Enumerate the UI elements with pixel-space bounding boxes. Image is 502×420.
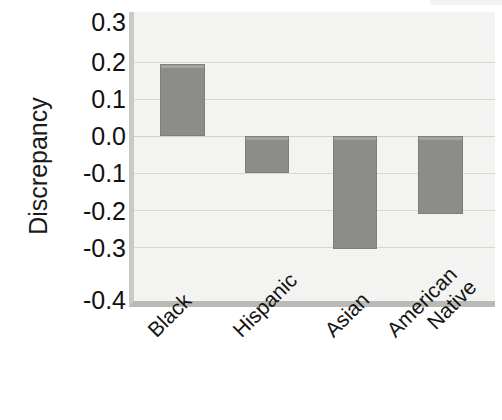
x-tick-label-hispanic: Hispanic	[228, 268, 301, 341]
x-axis-tick-labels: Black Hispanic Asian American Native	[0, 0, 502, 420]
x-tick-label-line: Black	[143, 289, 196, 342]
x-tick-label-native-american: American Native	[382, 259, 481, 358]
chart-figure: Discrepancy 0.3 0.2 0.1 0.0 -0.1 -0.2 -0…	[0, 0, 502, 420]
x-tick-label-line: Asian	[320, 288, 373, 341]
x-tick-label-asian: Asian	[320, 288, 373, 341]
x-tick-label-black: Black	[143, 289, 196, 342]
x-tick-label-line: Hispanic	[228, 268, 301, 341]
